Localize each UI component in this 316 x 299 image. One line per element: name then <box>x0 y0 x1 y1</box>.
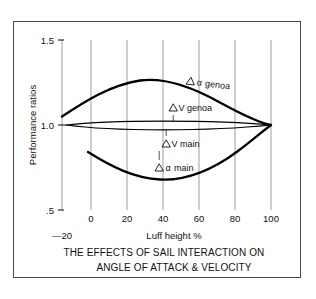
series-label-symbol-v-main: V <box>172 139 178 149</box>
series-label-text-main: main <box>180 139 200 149</box>
y-axis-title: Performance ratios <box>27 85 38 166</box>
x-origin-label: —20 <box>52 230 72 241</box>
x-tick-label-100: 100 <box>263 213 279 224</box>
curve-delta-v-main <box>67 125 271 130</box>
series-label-text-genoa-2: genoa <box>187 103 212 113</box>
x-tick-label-20: 20 <box>122 213 133 224</box>
series-label-symbol-alpha-main: α <box>166 163 171 173</box>
series-label-symbol-v-genoa: V <box>179 103 185 113</box>
delta-triangle-icon <box>186 77 195 85</box>
x-tick-label-60: 60 <box>194 213 205 224</box>
chart-canvas: 1.5 1.0 .5 Performance ratios 0 20 40 60… <box>14 22 300 277</box>
curve-delta-alpha-genoa <box>62 80 271 125</box>
x-tick-label-0: 0 <box>88 213 93 224</box>
caption-line-1: THE EFFECTS OF SAIL INTERACTION ON <box>64 247 265 258</box>
caption-line-2: ANGLE OF ATTACK & VELOCITY <box>96 262 251 273</box>
x-tick-label-80: 80 <box>230 213 241 224</box>
x-tick-label-40: 40 <box>158 213 169 224</box>
gridlines-group <box>62 40 271 210</box>
y-tick-label-1-0: 1.0 <box>41 120 54 131</box>
delta-triangle-icon <box>169 104 177 111</box>
series-label-delta-alpha-main: α main <box>155 151 194 173</box>
y-tick-label-1-5: 1.5 <box>41 35 54 46</box>
series-label-delta-v-genoa: V genoa <box>169 103 212 121</box>
x-tick-labels-group: 0 20 40 60 80 100 <box>88 213 279 224</box>
series-label-symbol-alpha-genoa: α <box>196 77 202 88</box>
y-tick-label-0-5: .5 <box>46 205 54 216</box>
curve-delta-v-genoa <box>67 121 271 125</box>
figure-border: 1.5 1.0 .5 Performance ratios 0 20 40 60… <box>13 21 301 278</box>
series-label-delta-v-main: V main <box>162 129 200 149</box>
series-label-text-genoa: genoa <box>205 78 231 91</box>
series-label-text-main-2: main <box>174 163 194 173</box>
x-axis-title: Luff height % <box>146 230 202 241</box>
delta-triangle-icon <box>155 164 163 171</box>
